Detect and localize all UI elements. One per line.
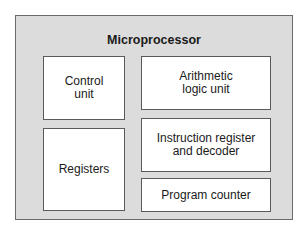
diagram-title: Microprocessor [16, 33, 292, 47]
instruction-register-label: Instruction register and decoder [157, 132, 256, 158]
control-unit-box: Control unit [43, 56, 125, 120]
instruction-register-box: Instruction register and decoder [141, 118, 271, 172]
registers-box: Registers [43, 128, 125, 211]
program-counter-label: Program counter [161, 189, 250, 202]
control-unit-label: Control unit [65, 75, 104, 101]
alu-box: Arithmetic logic unit [141, 56, 271, 110]
program-counter-box: Program counter [141, 178, 271, 212]
alu-label: Arithmetic logic unit [179, 70, 232, 96]
registers-label: Registers [59, 163, 110, 176]
